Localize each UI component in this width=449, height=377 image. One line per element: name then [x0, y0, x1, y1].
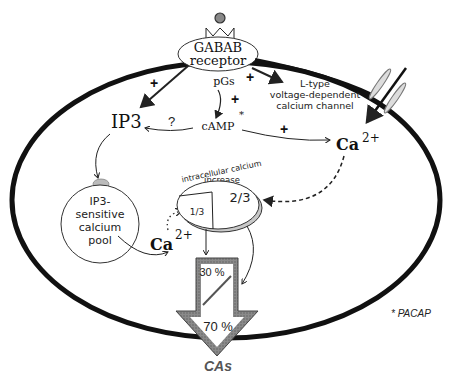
percent-seventy: 70 % — [203, 319, 233, 334]
ip3-label: IP3 — [111, 111, 142, 132]
ca-left-label: Ca — [150, 235, 173, 254]
ip3-to-pool-arrow — [96, 134, 110, 178]
ca-right-sup: 2+ — [362, 131, 380, 145]
gabab-signaling-diagram: GABAB receptor pGs + cAMP * + IP3 ? + L-… — [0, 0, 449, 377]
percent-thirty: 30 % — [199, 266, 224, 278]
ca-left-sup: 2+ — [175, 228, 193, 242]
receptor-to-l-type-arrow — [252, 68, 282, 82]
pgs-label: pGs — [213, 75, 235, 88]
pool-label-4: pool — [88, 234, 112, 247]
increase-to-ca-output-curve — [242, 226, 253, 284]
ca-right-label: Ca — [336, 135, 359, 154]
pacap-footnote: * PACAP — [391, 308, 431, 319]
fraction-one-third: 1/3 — [190, 207, 204, 217]
pgs-to-camp-arrow — [216, 90, 221, 118]
question-mark: ? — [168, 114, 175, 129]
ca-to-increase-dashed — [264, 156, 344, 202]
plus-l-type: + — [246, 69, 254, 85]
plus-camp: + — [280, 121, 288, 137]
l-type-label-3: calcium channel — [276, 100, 353, 111]
l-type-label-2: voltage-dependent — [270, 89, 361, 100]
pool-label-2: sensitive — [76, 208, 125, 221]
camp-label: cAMP — [202, 120, 235, 133]
cas-output-label: CAs — [204, 358, 232, 374]
fraction-two-thirds: 2/3 — [230, 190, 251, 205]
receptor-label-2: receptor — [190, 53, 247, 68]
l-type-label-1: L-type — [300, 78, 330, 89]
plus-ip3: + — [150, 75, 158, 91]
plus-pgs: + — [231, 91, 239, 107]
pool-label-1: IP3- — [90, 195, 111, 208]
pacap-star: * — [239, 109, 244, 120]
pool-label-3: calcium — [79, 221, 122, 234]
calcium-channel-icon — [367, 68, 408, 122]
